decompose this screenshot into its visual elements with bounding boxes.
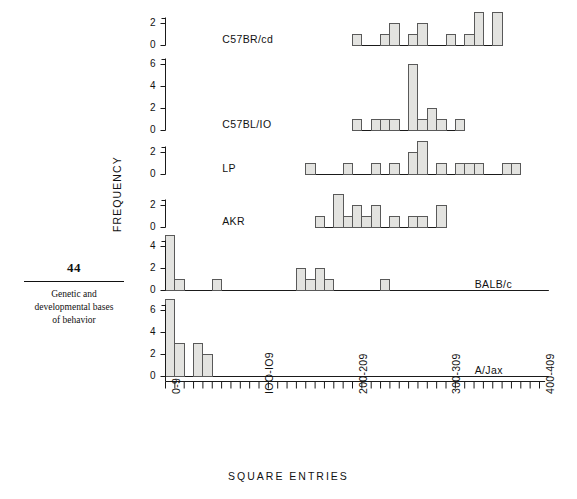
running-head: Genetic and developmental bases of behav… [18,288,130,326]
running-head-line-1: Genetic and [18,288,130,301]
histogram-bar [474,13,483,46]
y-tick-label: 2 [142,348,156,359]
y-tick-label: 0 [142,124,156,135]
histogram-bar [418,142,427,175]
histogram-bar [390,164,399,175]
histogram-bar [362,217,371,228]
y-tick-label: 4 [142,80,156,91]
y-axis-title: FREQUENCY [111,156,123,232]
histogram-bar [324,280,333,291]
x-tick-label: 300-309 [450,353,462,394]
histogram-bar [343,164,352,175]
running-head-line-2: developmental bases [18,301,130,314]
histogram-bar [353,120,362,131]
histogram-plot [0,0,577,499]
x-tick-label: IOO-IO9 [263,352,275,394]
histogram-bar [390,217,399,228]
histogram-bar [465,164,474,175]
histogram-bar [175,280,184,291]
strain-label-akr: AKR [222,215,245,227]
histogram-bar [371,164,380,175]
histogram-bar [437,120,446,131]
histogram-bar [166,236,175,291]
y-tick-label: 2 [142,17,156,28]
y-tick-label: 0 [142,168,156,179]
histogram-bar [418,120,427,131]
histogram-bar [418,217,427,228]
strain-label-lp: LP [222,162,236,174]
histogram-bar [409,65,418,131]
strain-label-c57bl-io: C57BL/IO [222,118,271,130]
histogram-bar [474,164,483,175]
histogram-bar [381,280,390,291]
y-tick-label: 0 [142,39,156,50]
histogram-bar [381,120,390,131]
figure-root: 44 Genetic and developmental bases of be… [0,0,577,499]
x-tick-label: 200-209 [357,353,369,394]
histogram-bar [409,153,418,175]
histogram-bar [343,217,352,228]
y-tick-label: 4 [142,326,156,337]
histogram-bar [315,269,324,291]
y-tick-label: 2 [142,262,156,273]
histogram-bar [446,35,455,46]
strain-label-balb-c: BALB/c [475,278,512,290]
panel-c57br-cd [161,13,503,46]
histogram-bar [306,280,315,291]
histogram-bar [418,24,427,46]
histogram-bar [203,355,212,377]
histogram-bar [371,120,380,131]
y-tick-label: 2 [142,102,156,113]
histogram-bar [409,35,418,46]
histogram-bar [353,206,362,228]
margin-divider [24,281,124,282]
y-tick-label: 4 [142,240,156,251]
histogram-bar [455,164,464,175]
y-tick-label: 6 [142,58,156,69]
histogram-bar [371,206,380,228]
histogram-bar [390,24,399,46]
page-number: 44 [18,260,130,276]
y-tick-label: 0 [142,284,156,295]
histogram-bar [437,206,446,228]
histogram-bar [465,35,474,46]
histogram-bar [437,164,446,175]
y-tick-label: 2 [142,146,156,157]
histogram-bar [212,280,221,291]
y-tick-label: 0 [142,221,156,232]
histogram-bar [334,195,343,228]
histogram-bar [511,164,520,175]
x-tick-label: 0-9 [170,377,182,393]
histogram-bar [315,217,324,228]
panel-lp [161,142,521,175]
histogram-bar [409,217,418,228]
histogram-bar [390,120,399,131]
histogram-bar [306,164,315,175]
strain-label-c57br-cd: C57BR/cd [222,33,273,45]
x-tick-label: 400-409 [544,353,556,394]
histogram-bar [296,269,305,291]
page-margin-block: 44 Genetic and developmental bases of be… [18,260,130,326]
y-tick-label: 0 [142,370,156,381]
x-axis [166,376,546,389]
histogram-bar [427,109,436,131]
histogram-bar [353,35,362,46]
running-head-line-3: of behavior [18,314,130,327]
y-tick-label: 2 [142,199,156,210]
y-tick-label: 6 [142,304,156,315]
histogram-bar [502,164,511,175]
x-axis-title: SQUARE ENTRIES [0,470,577,482]
histogram-bar [493,13,502,46]
histogram-bar [166,300,175,377]
histogram-bar [194,344,203,377]
histogram-bar [455,120,464,131]
histogram-bar [381,35,390,46]
strain-label-a-jax: A/Jax [475,364,503,376]
histogram-bar [175,344,184,377]
panel-c57bl-io [161,59,465,131]
panel-akr [161,195,447,228]
